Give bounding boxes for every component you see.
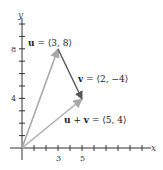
y-tick-label-4: 4: [11, 94, 16, 103]
x-axis-label: x: [151, 143, 156, 153]
x-tick-label-5: 5: [80, 154, 85, 163]
y-axis-label: y: [17, 10, 24, 20]
x-tick-label-3: 3: [56, 154, 61, 163]
label-v: v = ⟨2, −4⟩: [77, 74, 128, 84]
vector-diagram: 3 5 4 8 x y u = ⟨3, 8⟩ v = ⟨2, −4⟩ u + v…: [0, 0, 163, 170]
label-u: u = ⟨3, 8⟩: [28, 38, 72, 48]
y-tick-label-8: 8: [11, 45, 16, 54]
label-u-plus-v: u + v = ⟨5, 4⟩: [64, 115, 127, 125]
